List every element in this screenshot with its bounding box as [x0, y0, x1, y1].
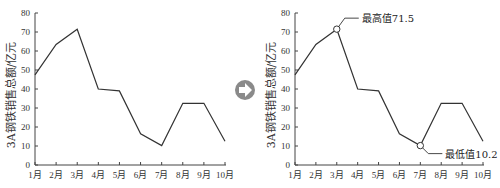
- x-tick-label: 9月: [197, 170, 211, 180]
- x-tick-label: 5月: [113, 170, 127, 180]
- comparison-figure: 010203040506070801月2月3月4月5月6月7月8月9月10月3A…: [0, 0, 500, 188]
- x-tick-label: 7月: [414, 170, 428, 180]
- y-tick-label: 20: [281, 122, 291, 132]
- x-tick-label: 8月: [434, 170, 448, 180]
- line-chart-original: 010203040506070801月2月3月4月5月6月7月8月9月10月3A…: [4, 8, 234, 180]
- y-tick-label: 40: [21, 84, 31, 94]
- y-tick-label: 0: [26, 160, 31, 170]
- line-chart-annotated: 010203040506070801月2月3月4月5月6月7月8月9月10月3A…: [264, 8, 498, 180]
- data-line: [295, 29, 483, 145]
- y-tick-label: 80: [281, 8, 291, 18]
- y-tick-label: 50: [21, 65, 31, 75]
- y-tick-label: 10: [21, 141, 31, 151]
- x-tick-label: 10月: [474, 170, 492, 180]
- y-tick-label: 60: [281, 46, 291, 56]
- x-tick-label: 10月: [216, 170, 234, 180]
- y-tick-label: 0: [286, 160, 291, 170]
- x-tick-label: 4月: [351, 170, 365, 180]
- x-tick-label: 3月: [330, 170, 344, 180]
- y-axis-title: 3A钢铁销售总额/亿元: [264, 42, 278, 149]
- y-tick-label: 30: [21, 103, 31, 113]
- x-tick-label: 3月: [70, 170, 84, 180]
- x-tick-label: 5月: [372, 170, 386, 180]
- y-tick-label: 20: [21, 122, 31, 132]
- max-point-marker: [334, 26, 340, 32]
- min-value-annotation: 最低值10.2: [445, 148, 497, 160]
- x-tick-label: 9月: [455, 170, 469, 180]
- y-tick-label: 60: [21, 46, 31, 56]
- y-tick-label: 10: [281, 141, 291, 151]
- min-point-marker: [417, 142, 423, 148]
- x-tick-label: 6月: [393, 170, 407, 180]
- y-tick-label: 70: [21, 27, 31, 37]
- x-tick-label: 2月: [309, 170, 323, 180]
- arrow-right-circle-icon: [235, 80, 255, 100]
- x-tick-label: 6月: [134, 170, 148, 180]
- y-tick-label: 70: [281, 27, 291, 37]
- y-axis-title: 3A钢铁销售总额/亿元: [4, 42, 18, 149]
- max-value-annotation: 最高值71.5: [362, 12, 414, 24]
- data-line: [35, 29, 225, 145]
- x-tick-label: 1月: [28, 170, 42, 180]
- y-tick-label: 50: [281, 65, 291, 75]
- x-tick-label: 7月: [155, 170, 169, 180]
- y-tick-label: 40: [281, 84, 291, 94]
- x-tick-label: 1月: [288, 170, 302, 180]
- x-tick-label: 2月: [49, 170, 63, 180]
- y-tick-label: 80: [21, 8, 31, 18]
- x-tick-label: 4月: [92, 170, 106, 180]
- y-tick-label: 30: [281, 103, 291, 113]
- x-tick-label: 8月: [176, 170, 190, 180]
